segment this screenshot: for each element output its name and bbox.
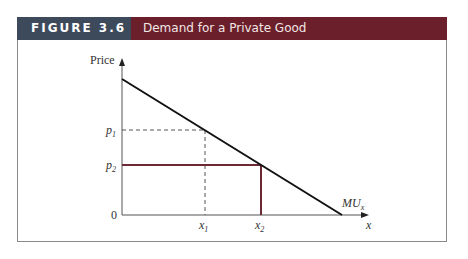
demand-chart: Price 0 p1 p2 x1 x2 x MUx — [0, 0, 468, 259]
x-axis-label: x — [365, 218, 372, 232]
y-axis-arrow-icon — [119, 58, 125, 66]
mux-label: MUx — [341, 196, 365, 212]
x1-label: x1 — [198, 218, 208, 234]
p1-label: p1 — [105, 123, 116, 139]
x2-label: x2 — [254, 218, 264, 234]
origin-label: 0 — [111, 208, 117, 222]
y-axis-label: Price — [90, 53, 115, 67]
demand-curve-mux — [122, 79, 342, 215]
p2-label: p2 — [105, 158, 116, 174]
